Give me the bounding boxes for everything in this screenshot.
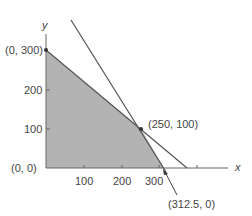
point-label-312-0: (312.5, 0) [168,198,215,210]
x-axis-label: x [234,161,241,173]
y-axis-label: y [41,19,49,31]
vertex-0-300 [44,48,48,52]
x-tick-label-300: 300 [145,175,163,187]
arrow-line [165,172,177,195]
point-label-0-300: (0, 300) [5,44,43,56]
point-label-0-0: (0, 0) [11,162,37,174]
x-tick-label-200: 200 [113,175,131,187]
linear-programming-chart: y x 100 200 300 100 200 (0, 300) (250, 1… [0,0,252,216]
point-label-250-100: (250, 100) [148,118,198,130]
x-tick-label-100: 100 [75,175,93,187]
arrow-head-icon [163,169,168,175]
feasible-region [46,50,164,168]
y-tick-label-100: 100 [24,123,42,135]
vertex-250-100 [139,127,143,131]
y-tick-label-200: 200 [24,84,42,96]
